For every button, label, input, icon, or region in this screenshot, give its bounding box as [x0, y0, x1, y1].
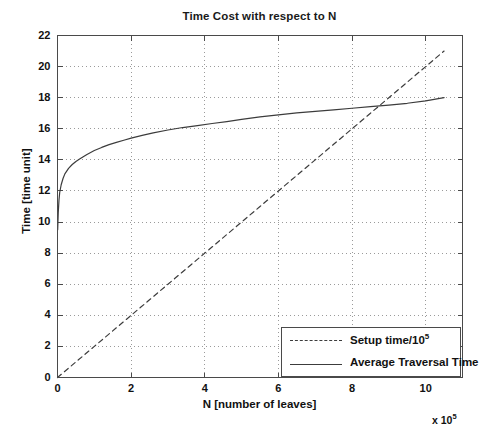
- x-tick-label: 8: [340, 382, 364, 394]
- x-tick-label: 10: [414, 382, 438, 394]
- x-axis-exponent-base: x 10: [432, 414, 452, 426]
- legend-label-setup-time: Setup time/105: [350, 332, 429, 346]
- x-tick-label: 2: [119, 382, 143, 394]
- y-tick-label: 18: [27, 91, 51, 103]
- chart-legend[interactable]: Setup time/105 Average Traversal Time: [281, 327, 461, 377]
- x-axis-label: N [number of leaves]: [57, 398, 462, 410]
- y-tick-label: 4: [27, 308, 51, 320]
- x-tick-label: 6: [266, 382, 290, 394]
- legend-line-sample-solid-icon: [290, 364, 342, 365]
- y-tick-label: 12: [27, 184, 51, 196]
- x-axis-exponent: x 105: [432, 412, 457, 426]
- y-tick-label: 14: [27, 153, 51, 165]
- legend-item-average-traversal-time[interactable]: Average Traversal Time: [282, 352, 460, 377]
- series-line-1: [58, 98, 444, 230]
- x-tick-label: 0: [46, 382, 70, 394]
- legend-label-average-traversal-time: Average Traversal Time: [350, 356, 479, 368]
- y-tick-label: 8: [27, 246, 51, 258]
- x-tick-label: 4: [193, 382, 217, 394]
- y-tick-label: 2: [27, 339, 51, 351]
- figure-canvas: Time Cost with respect to N Time [time u…: [0, 0, 489, 431]
- x-axis-exponent-power: 5: [452, 412, 456, 421]
- legend-item-setup-time[interactable]: Setup time/105: [282, 328, 460, 353]
- legend-line-sample-dashed-icon: [290, 340, 342, 341]
- y-tick-label: 20: [27, 60, 51, 72]
- y-tick-label: 16: [27, 122, 51, 134]
- y-tick-label: 22: [27, 29, 51, 41]
- y-tick-label: 6: [27, 277, 51, 289]
- y-tick-label: 10: [27, 215, 51, 227]
